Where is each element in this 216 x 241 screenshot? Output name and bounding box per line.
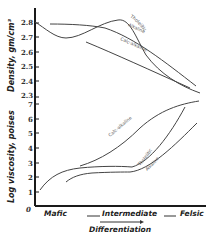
- viscosity-tick-label: 1: [28, 188, 33, 197]
- viscosity-tick-label: 5: [28, 129, 33, 138]
- density-tick-label: 2.6: [21, 48, 33, 57]
- viscosity-curve-tholeiitic: [40, 107, 185, 190]
- x-category-felsic: Felsic: [180, 209, 204, 218]
- viscosity-curve-alkaline: [66, 123, 197, 182]
- x-category-mafic: Mafic: [44, 209, 67, 218]
- viscosity-tick-label: 2: [28, 173, 33, 182]
- viscosity-label-calc-alkaline: Calc-alkaline: [107, 115, 133, 138]
- density-viscosity-chart: 2.8 2.7 2.6 2.5 2.4 2.3 7 6 5 4 3 2 1 0 …: [0, 0, 216, 241]
- density-ticks: 2.8 2.7 2.6 2.5 2.4 2.3: [21, 18, 39, 100]
- viscosity-axis-title: Log viscosity, poises: [7, 110, 16, 203]
- density-tick-label: 2.8: [21, 18, 33, 27]
- density-curve-tholeiitic: [35, 20, 200, 93]
- density-axis-title: Density, gm/cm³: [7, 18, 16, 92]
- viscosity-curve-calc-alkaline: [80, 101, 199, 166]
- viscosity-tick-label: 6: [28, 115, 33, 124]
- viscosity-tick-label: 7: [28, 100, 33, 109]
- density-tick-label: 2.7: [21, 33, 33, 42]
- density-label-calc-alkaline: Calc-alkaline: [120, 36, 149, 52]
- origin-label: 0: [26, 205, 31, 214]
- density-tick-label: 2.5: [21, 62, 33, 71]
- arrow-head-icon: [140, 220, 144, 224]
- density-curve-alkaline: [50, 24, 196, 86]
- density-tick-label: 2.3: [21, 91, 33, 100]
- density-tick-label: 2.4: [21, 77, 33, 86]
- viscosity-tick-label: 4: [28, 144, 33, 153]
- x-axis-title: Differentiation: [89, 225, 151, 234]
- x-category-intermediate: Intermediate: [102, 209, 157, 218]
- viscosity-ticks: 7 6 5 4 3 2 1 0: [26, 100, 39, 214]
- viscosity-tick-label: 3: [28, 159, 33, 168]
